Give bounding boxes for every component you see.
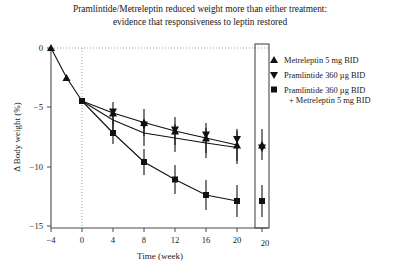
x-tick-8: 8 — [142, 235, 146, 245]
legend-label-1: Pramlintide 360 µg BID — [284, 71, 365, 80]
x-tick-12: 12 — [171, 235, 180, 245]
x-tick-16: 16 — [202, 235, 211, 245]
series-combination — [79, 98, 240, 217]
y-tick-minus5: −5 — [34, 102, 43, 112]
chart-title-line2: evidence that responsiveness to leptin r… — [113, 17, 287, 27]
y-tick-minus15: −15 — [30, 221, 43, 231]
chart-title-line1: Pramlintide/Metreleptin reduced weight m… — [73, 4, 327, 14]
y-tick-minus10: −10 — [30, 162, 43, 172]
y-tick-labels: 0 −5 −10 −15 — [30, 43, 43, 231]
x-tick-20: 20 — [233, 235, 242, 245]
y-tick-0: 0 — [39, 43, 43, 53]
chart-figure: Pramlintide/Metreleptin reduced weight m… — [0, 0, 400, 267]
y-axis-label: Δ Body weight (%) — [12, 102, 22, 172]
x-axis-label: Time (week) — [137, 251, 183, 261]
x-tick-4: 4 — [111, 235, 116, 245]
chart-legend: Metreleptin 5 mg BID Pramlintide 360 µg … — [270, 56, 370, 105]
x-tick-labels: −4 0 4 8 12 16 20 20 — [46, 235, 269, 248]
lead-in-curve — [47, 44, 82, 101]
endpoint-panel — [255, 44, 269, 228]
x-tick-minus4: −4 — [46, 235, 56, 245]
legend-label-2: Pramlintide 360 µg BID — [284, 86, 365, 95]
series-metreleptin — [82, 101, 241, 161]
legend-label-2-cont: + Metreleptin 5 mg BID — [289, 96, 370, 105]
legend-label-0: Metreleptin 5 mg BID — [284, 56, 359, 65]
panel-x-tick-20: 20 — [261, 238, 270, 248]
x-tick-0: 0 — [80, 235, 84, 245]
